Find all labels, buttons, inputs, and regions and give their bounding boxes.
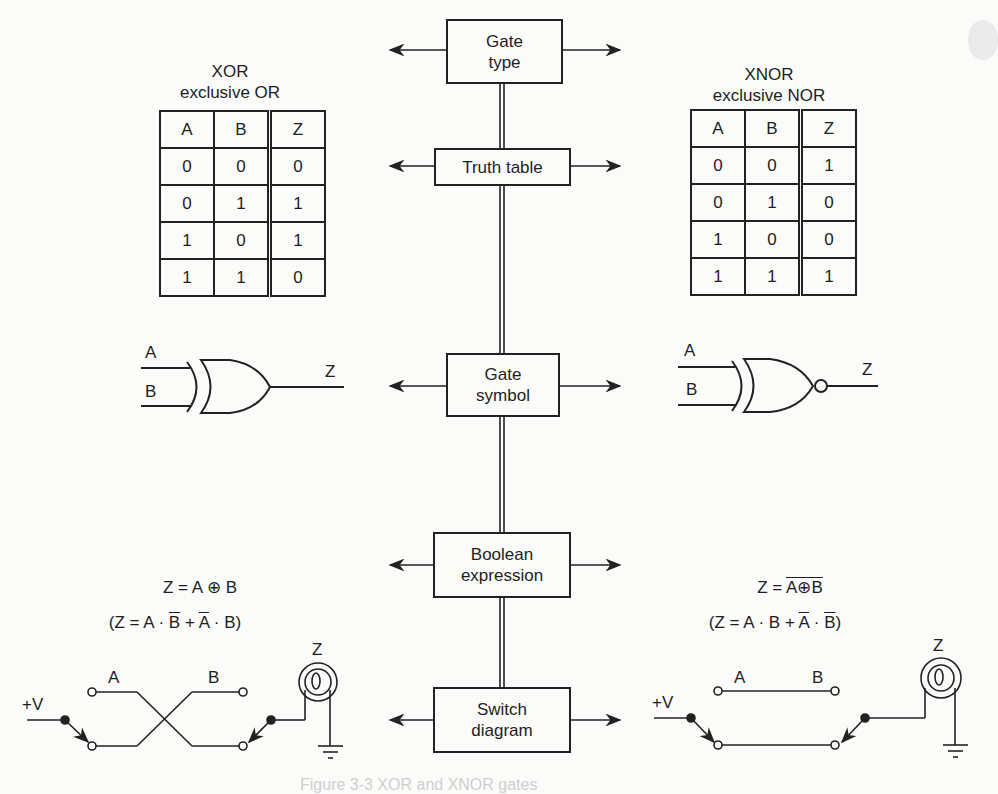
box-label-line2: expression (461, 565, 543, 586)
cell: 0 (801, 184, 857, 221)
xnor-input-b-label: B (686, 380, 697, 400)
xnor-gate-symbol (678, 359, 878, 412)
table-row: 1 1 0 (160, 259, 325, 296)
table-row: 0 1 1 (160, 185, 325, 222)
xor-output-label: Z (325, 362, 335, 382)
cell: 0 (691, 147, 745, 184)
xor-expression-expanded: (Z = A · B + A · B) (90, 613, 260, 633)
header-b: B (745, 110, 801, 147)
xnor-subtitle: exclusive NOR (694, 85, 844, 106)
cell: 0 (745, 221, 801, 258)
expr-b-bar: B (169, 613, 180, 632)
expr-part: Z = (757, 578, 786, 597)
expr-part: + (180, 613, 198, 632)
cell: 1 (745, 184, 801, 221)
expr-overlined: A⊕B (786, 578, 823, 597)
box-gate-type: Gate type (446, 19, 563, 84)
cell: 0 (160, 185, 214, 222)
xnor-switch-a-label: A (734, 668, 745, 688)
expr-part: (Z = A · B + (709, 613, 799, 632)
box-label-line2: diagram (471, 720, 532, 741)
box-boolean-expression: Boolean expression (433, 532, 571, 598)
xnor-title: XNOR (694, 64, 844, 85)
header-a: A (691, 110, 745, 147)
box-label-line2: symbol (476, 385, 530, 406)
xor-lamp-label: Z (312, 640, 322, 660)
xnor-supply-label: +V (652, 693, 673, 713)
cell: 1 (801, 258, 857, 295)
table-row: 0 0 1 (691, 147, 856, 184)
expr-b-bar: B (824, 613, 835, 632)
xnor-truth-table: A B Z 0 0 1 0 1 0 1 0 0 1 1 1 (690, 109, 857, 296)
expr-a-bar: A (199, 613, 209, 632)
box-label-line1: Gate (485, 364, 522, 385)
cell: 1 (270, 222, 326, 259)
box-label-line1: Gate (486, 31, 523, 52)
table-row: 1 0 0 (691, 221, 856, 258)
cell: 0 (270, 148, 326, 185)
header-a: A (160, 111, 214, 148)
xor-input-a-label: A (145, 343, 156, 363)
table-header-row: A B Z (691, 110, 856, 147)
xnor-expression-expanded: (Z = A · B + A · B) (690, 613, 860, 633)
cell: 1 (160, 259, 214, 296)
table-header-row: A B Z (160, 111, 325, 148)
expr-part: · B) (209, 613, 241, 632)
table-row: 0 0 0 (160, 148, 325, 185)
cell: 1 (691, 221, 745, 258)
xor-supply-label: +V (22, 695, 43, 715)
cell: 1 (214, 185, 270, 222)
cell: 0 (214, 148, 270, 185)
xor-subtitle: exclusive OR (160, 82, 300, 103)
box-label-line2: type (488, 52, 520, 73)
xnor-input-a-label: A (684, 341, 695, 361)
xnor-expression: Z = A⊕B (730, 577, 850, 598)
cell: 0 (801, 221, 857, 258)
header-z: Z (270, 111, 326, 148)
expr-a-bar: A (799, 613, 809, 632)
box-label-line1: Truth table (462, 157, 543, 178)
header-b: B (214, 111, 270, 148)
xnor-switch-circuit (654, 658, 968, 757)
cell: 1 (160, 222, 214, 259)
table-row: 1 0 1 (160, 222, 325, 259)
cell: 0 (214, 222, 270, 259)
cell: 0 (745, 147, 801, 184)
xor-gate-symbol (141, 360, 344, 413)
xor-heading: XOR exclusive OR (160, 61, 300, 103)
xor-switch-a-label: A (108, 668, 119, 688)
cell: 0 (691, 184, 745, 221)
header-z: Z (801, 110, 857, 147)
cell: 1 (270, 185, 326, 222)
box-label-line1: Switch (477, 699, 527, 720)
xor-title: XOR (160, 61, 300, 82)
xnor-heading: XNOR exclusive NOR (694, 64, 844, 106)
cell: 1 (801, 147, 857, 184)
xor-truth-table: A B Z 0 0 0 0 1 1 1 0 1 1 1 0 (159, 110, 326, 297)
xnor-switch-b-label: B (812, 668, 823, 688)
xor-switch-circuit (27, 663, 343, 758)
table-row: 1 1 1 (691, 258, 856, 295)
expr-part: · (809, 613, 824, 632)
xor-switch-b-label: B (208, 668, 219, 688)
xnor-output-label: Z (862, 360, 872, 380)
figure-caption: Figure 3-3 XOR and XNOR gates (300, 776, 537, 794)
box-truth-table: Truth table (434, 148, 571, 186)
box-gate-symbol: Gate symbol (446, 353, 560, 417)
xnor-lamp-label: Z (933, 636, 943, 656)
cell: 1 (691, 258, 745, 295)
expr-part: ) (835, 613, 841, 632)
cell: 0 (270, 259, 326, 296)
expr-part: (Z = A · (109, 613, 169, 632)
xor-expression: Z = A ⊕ B (100, 577, 300, 598)
box-label-line1: Boolean (471, 544, 533, 565)
cell: 1 (214, 259, 270, 296)
cell: 0 (160, 148, 214, 185)
box-switch-diagram: Switch diagram (433, 687, 571, 753)
xor-input-b-label: B (145, 382, 156, 402)
cell: 1 (745, 258, 801, 295)
table-row: 0 1 0 (691, 184, 856, 221)
